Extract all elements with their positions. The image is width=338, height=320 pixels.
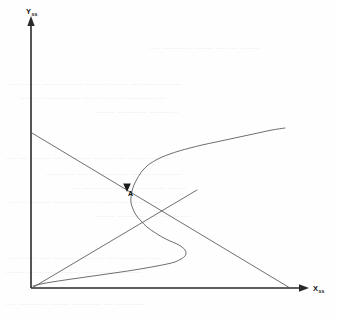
- y-axis-arrow-icon: [27, 16, 34, 26]
- x-axis-label-group: X ss: [313, 284, 324, 294]
- point-a-label: A: [128, 190, 133, 197]
- y-axis-label-subscript: ss: [32, 11, 38, 17]
- axes-group: [27, 16, 309, 292]
- data-curves-group: [32, 128, 290, 288]
- y-axis-label-symbol: Y: [26, 7, 31, 16]
- figure-root: — ——— —— — — ——— —— ——— — —— —— — ——————…: [0, 0, 338, 320]
- steady-state-plot: Y ss X ss A: [0, 0, 338, 320]
- x-axis-arrow-icon: [299, 284, 309, 291]
- x-axis-label-subscript: ss: [319, 288, 325, 294]
- y-axis-label-group: Y ss: [26, 7, 37, 17]
- x-axis-label-symbol: X: [313, 284, 318, 293]
- point-a-annotation: A: [123, 184, 133, 198]
